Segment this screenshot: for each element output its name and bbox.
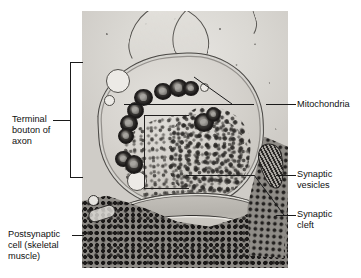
mitochondria-leader-diagonal	[178, 71, 234, 111]
synaptic-vesicles-leader	[276, 175, 296, 176]
figure-page: Terminal bouton of axon Postsynaptic cel…	[0, 0, 361, 278]
label-postsynaptic-cell: Postsynaptic cell (skeletal muscle)	[8, 229, 74, 263]
label-synaptic-cleft: Synaptic cleft	[297, 209, 357, 231]
mitochondria-leader	[266, 104, 296, 105]
synaptic-cleft-leader-diagonal	[186, 175, 256, 227]
clear-vacuole	[104, 95, 115, 106]
label-terminal-bouton-of-axon: Terminal bouton of axon	[12, 114, 58, 148]
terminal-bouton-bracket	[70, 62, 83, 178]
electron-micrograph	[82, 11, 288, 268]
synaptic-cleft-leader	[276, 215, 296, 216]
clear-vacuole	[106, 69, 130, 93]
mitochondrion	[118, 128, 134, 144]
vesicle-callout-box	[144, 115, 189, 189]
label-synaptic-vesicles: Synaptic vesicles	[297, 169, 357, 191]
label-mitochondria: Mitochondria	[297, 99, 359, 110]
clear-vacuole	[88, 195, 99, 206]
mitochondrion	[125, 155, 143, 174]
